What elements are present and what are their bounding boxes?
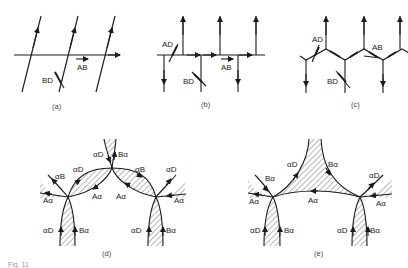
label-br-ad: αD [337,226,348,235]
label-ad: AD [312,35,323,44]
panel-e: αD Bα Bα Aα Aα αD Aα αD Bα αD Bα (e) [248,139,392,258]
caption-a: (a) [52,102,62,111]
label-bd: BD [183,77,194,86]
caption-d: (d) [102,249,112,258]
label-left-aa2: Aα [92,192,102,201]
label-right-ab: αB [135,165,145,174]
label-br-ba: Bα [166,226,176,235]
label-bd: BD [327,77,338,86]
inclined-dislocation-line-1 [22,16,41,92]
label-right-aa: Aα [116,192,126,201]
label-bl-ad: αD [43,226,54,235]
label-left-ab: αB [55,172,65,181]
label-br-ad: αD [131,226,142,235]
ad-arrow-icon [315,47,319,56]
label-top-ad: αD [93,150,104,159]
label-ab: AB [77,63,88,72]
caption-e: (e) [314,249,324,258]
panel-c: AD AB BD (c) [300,16,408,109]
label-right-aa: Aα [376,199,386,208]
panel-b: AD AB BD (b) [157,16,265,109]
inclined-dislocation-line-2 [59,16,78,92]
caption-b: (b) [201,100,211,109]
label-right-ad: αD [369,171,380,180]
label-bl-ad: αD [250,226,261,235]
panel-a: AB BD (a) [14,16,120,111]
label-ad: AD [162,40,173,49]
label-ad-left: αD [287,160,298,169]
label-mid-aa: Aα [308,196,318,205]
label-bl-ba: Bα [284,226,294,235]
label-ab: AB [372,43,383,52]
label-left-ba: Bα [265,174,275,183]
label-ab: AB [221,63,232,72]
hatched-region-bottom-left [264,197,280,246]
hatched-region-bottom-right [148,197,163,246]
label-top-ba: Bα [118,150,128,159]
caption-c: (c) [351,100,360,109]
label-right-aa2: Aα [174,196,184,205]
hatched-region-bottom-right [352,197,367,246]
label-ba-right: Bα [328,160,338,169]
panel-d: αD Bα αB αD Aα Aα αB αD Aα Aα αD Bα αD B… [40,139,186,258]
label-left-aa: Aα [43,196,53,205]
hatched-region-bottom-left [60,197,75,246]
dislocation-network-diagram: AB BD (a) AD AB BD (b) [0,0,408,268]
label-right-ad: αD [166,165,177,174]
label-left-ad: αD [73,165,84,174]
label-br-ba: Bα [370,226,380,235]
label-left-aa: Aα [249,197,259,206]
label-bl-ba: Bα [79,226,89,235]
figure-caption: Fig. 11 [8,261,29,268]
inclined-dislocation-line-3 [96,16,115,92]
bd-arrow-icon [55,72,61,83]
label-bd: BD [42,76,53,85]
